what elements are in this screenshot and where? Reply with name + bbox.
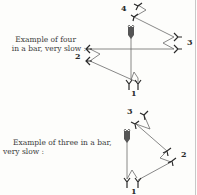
baton-icon-2 xyxy=(124,129,130,143)
beat-label-1-three: 1 xyxy=(131,186,137,195)
beat-label-2-three: 2 xyxy=(181,149,187,159)
beat-marker-icons-2 xyxy=(124,111,176,188)
beat-label-3-three: 3 xyxy=(127,106,133,116)
three-beat-diagram xyxy=(0,0,197,195)
